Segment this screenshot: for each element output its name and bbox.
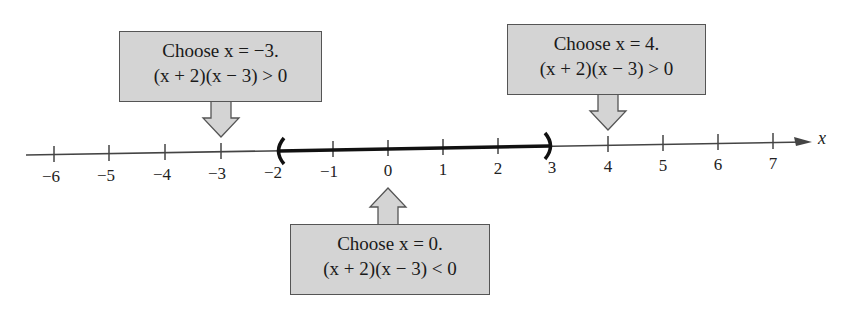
callout-left-line1: Choose x = −3.	[120, 38, 321, 63]
tick-label: −5	[86, 166, 126, 186]
solution-interval	[279, 146, 549, 151]
up-arrow-icon-middle	[370, 188, 406, 225]
down-arrow-icon-left	[203, 101, 239, 137]
callout-right-line1: Choose x = 4.	[508, 31, 705, 56]
tick-label: −3	[197, 164, 237, 184]
callout-middle: Choose x = 0. (x + 2)(x − 3) < 0	[290, 224, 490, 295]
tick-label: −1	[309, 162, 349, 182]
tick-label: 2	[478, 159, 518, 179]
callout-right: Choose x = 4. (x + 2)(x − 3) > 0	[507, 24, 706, 95]
axis-variable-label: x	[818, 128, 826, 149]
callout-right-line2: (x + 2)(x − 3) > 0	[508, 56, 705, 81]
callout-left: Choose x = −3. (x + 2)(x − 3) > 0	[119, 31, 322, 102]
tick-label: 5	[643, 156, 683, 176]
tick-label: −4	[142, 165, 182, 185]
tick-label: 4	[588, 157, 628, 177]
callout-middle-line1: Choose x = 0.	[291, 231, 489, 256]
tick-label: 3	[532, 158, 572, 178]
callout-left-line2: (x + 2)(x − 3) > 0	[120, 63, 321, 88]
down-arrow-icon-right	[590, 94, 626, 130]
tick-label: 1	[423, 160, 463, 180]
tick-label: 0	[368, 161, 408, 181]
callout-middle-line2: (x + 2)(x − 3) < 0	[291, 256, 489, 281]
tick-label: −2	[253, 163, 293, 183]
tick-label: 7	[753, 154, 793, 174]
axis-arrow-icon	[794, 137, 812, 146]
tick-label: 6	[698, 155, 738, 175]
tick-label: −6	[31, 167, 71, 187]
